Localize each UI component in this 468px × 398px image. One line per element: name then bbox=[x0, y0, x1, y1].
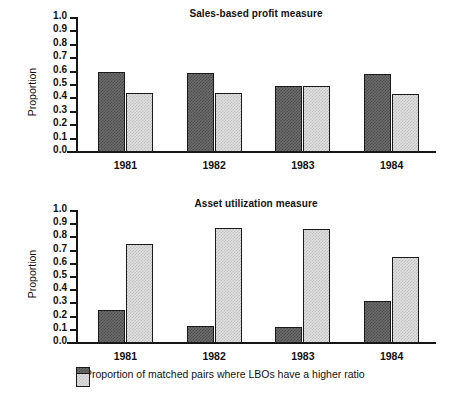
y-axis-tick-label: 0.6 bbox=[53, 257, 67, 267]
y-axis-tick-label: 0.9 bbox=[53, 217, 67, 227]
y-axis-tick-label: 0.0 bbox=[53, 145, 67, 155]
bar-1981-series1 bbox=[98, 72, 125, 152]
y-axis-tick: 0.1 bbox=[70, 329, 78, 331]
bar-1982-series1 bbox=[187, 73, 214, 152]
y-axis-tick-label: 0.3 bbox=[53, 105, 67, 115]
x-axis-tick-label-1982: 1982 bbox=[187, 350, 242, 362]
y-axis-tick-label: 0.9 bbox=[53, 24, 67, 34]
y-axis-tick: 0.9 bbox=[70, 223, 78, 225]
bar-1983-series1 bbox=[275, 86, 302, 152]
bar-group-1983: 1983 bbox=[275, 211, 330, 343]
y-axis-tick: 0.6 bbox=[70, 71, 78, 73]
x-axis-tick-label-1984: 1984 bbox=[364, 350, 419, 362]
bar-1982-series1 bbox=[187, 326, 214, 343]
y-axis-tick: 1.0 bbox=[70, 210, 78, 212]
y-axis-tick: 0.5 bbox=[70, 276, 78, 278]
bar-1984-series1 bbox=[364, 301, 391, 343]
y-axis-tick: 0.2 bbox=[70, 124, 78, 126]
y-axis-tick: 0.7 bbox=[70, 250, 78, 252]
y-axis-tick: 0.7 bbox=[70, 57, 78, 59]
y-axis-tick-label: 1.0 bbox=[53, 204, 67, 214]
bar-group-1981: 1981 bbox=[98, 211, 153, 343]
x-axis-tick-label-1984: 1984 bbox=[364, 159, 419, 171]
y-axis-tick: 0.2 bbox=[70, 316, 78, 318]
legend-label-dark: Proportion of matched pairs where LBOs h… bbox=[85, 367, 365, 381]
y-axis-tick-label: 0.6 bbox=[53, 65, 67, 75]
bar-group-1983: 1983 bbox=[275, 18, 330, 152]
bar-1981-series2 bbox=[126, 93, 153, 152]
y-axis-tick: 0.9 bbox=[70, 30, 78, 32]
chart-title-bottom: Asset utilization measure bbox=[0, 198, 468, 209]
chart-panel-sales-based-profit: Sales-based profit measure Proportion 0.… bbox=[0, 0, 468, 185]
y-axis-tick-label: 0.5 bbox=[53, 270, 67, 280]
plot-area-bottom: 0.00.10.20.30.40.50.60.70.80.91.01981198… bbox=[77, 211, 432, 343]
y-axis-tick-label: 1.0 bbox=[53, 11, 67, 21]
y-axis-tick-label: 0.1 bbox=[53, 323, 67, 333]
y-axis-tick: 0.1 bbox=[70, 138, 78, 140]
y-axis-tick-label: 0.3 bbox=[53, 296, 67, 306]
bar-group-1984: 1984 bbox=[364, 18, 419, 152]
y-axis-label-bottom: Proportion bbox=[26, 224, 38, 324]
y-axis-tick: 0.3 bbox=[70, 111, 78, 113]
y-axis-tick: 0.8 bbox=[70, 236, 78, 238]
bar-1983-series2 bbox=[303, 229, 330, 343]
y-axis-tick: 0.4 bbox=[70, 97, 78, 99]
plot-area-top: 0.00.10.20.30.40.50.60.70.80.91.01981198… bbox=[77, 18, 432, 152]
bar-1984-series2 bbox=[392, 257, 419, 343]
x-axis-tick-label-1983: 1983 bbox=[275, 350, 330, 362]
bar-1983-series1 bbox=[275, 327, 302, 343]
y-axis-label-top: Proportion bbox=[26, 42, 38, 142]
y-axis-tick-label: 0.8 bbox=[53, 38, 67, 48]
y-axis-tick-label: 0.4 bbox=[53, 91, 67, 101]
y-axis-tick: 0.4 bbox=[70, 289, 78, 291]
y-axis-tick-label: 0.2 bbox=[53, 118, 67, 128]
bar-1984-series2 bbox=[392, 94, 419, 152]
x-axis-tick-label-1982: 1982 bbox=[187, 159, 242, 171]
y-axis-tick: 1.0 bbox=[70, 17, 78, 19]
bar-1981-series2 bbox=[126, 244, 153, 343]
bar-group-1982: 1982 bbox=[187, 211, 242, 343]
x-axis-tick-label-1981: 1981 bbox=[98, 350, 153, 362]
light-checker-swatch-icon bbox=[76, 373, 90, 387]
bar-1984-series1 bbox=[364, 74, 391, 152]
y-axis-tick-label: 0.8 bbox=[53, 230, 67, 240]
y-axis-tick-label: 0.5 bbox=[53, 78, 67, 88]
bar-1983-series2 bbox=[303, 86, 330, 152]
y-axis-tick-label: 0.7 bbox=[53, 51, 67, 61]
x-axis-tick-label-1983: 1983 bbox=[275, 159, 330, 171]
bar-group-1981: 1981 bbox=[98, 18, 153, 152]
bar-1981-series1 bbox=[98, 310, 125, 343]
y-axis-tick-label: 0.7 bbox=[53, 244, 67, 254]
y-axis-tick: 0.8 bbox=[70, 44, 78, 46]
y-axis-tick-label: 0.2 bbox=[53, 310, 67, 320]
bar-1982-series2 bbox=[215, 93, 242, 152]
y-axis-tick: 0.0 bbox=[70, 151, 78, 153]
y-axis-tick: 0.6 bbox=[70, 263, 78, 265]
y-axis-tick-label: 0.1 bbox=[53, 132, 67, 142]
legend-item-dark: Proportion of matched pairs where LBOs h… bbox=[76, 367, 365, 381]
chart-panel-asset-utilization: Asset utilization measure Proportion 0.0… bbox=[0, 190, 468, 360]
y-axis-tick: 0.3 bbox=[70, 302, 78, 304]
bar-group-1984: 1984 bbox=[364, 211, 419, 343]
y-axis-tick-label: 0.0 bbox=[53, 336, 67, 346]
chart-legend: Proportion of matched pairs where LBOs h… bbox=[0, 364, 468, 398]
y-axis-tick: 0.5 bbox=[70, 84, 78, 86]
y-axis-tick: 0.0 bbox=[70, 342, 78, 344]
y-axis-tick-label: 0.4 bbox=[53, 283, 67, 293]
bar-group-1982: 1982 bbox=[187, 18, 242, 152]
bar-1982-series2 bbox=[215, 228, 242, 343]
x-axis-tick-label-1981: 1981 bbox=[98, 159, 153, 171]
